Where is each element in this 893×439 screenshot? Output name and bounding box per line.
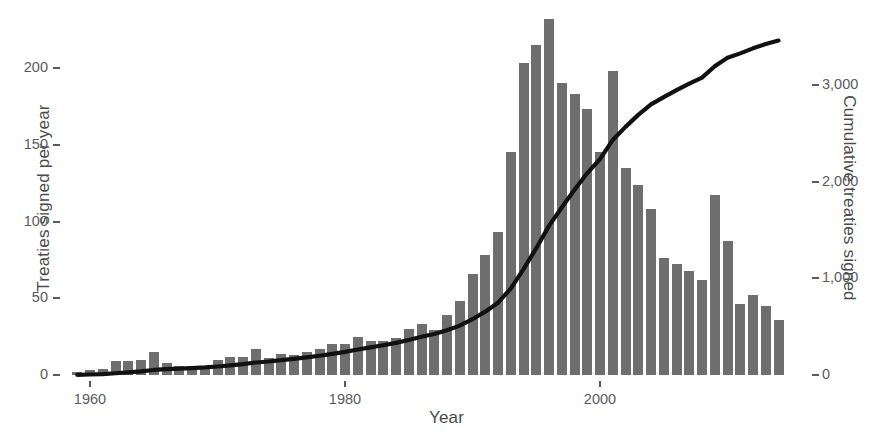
bar: [149, 352, 159, 375]
tick-mark: [599, 381, 601, 387]
bar: [404, 329, 414, 375]
bar: [340, 344, 350, 375]
bar: [378, 341, 388, 375]
bar: [659, 258, 669, 375]
bar: [646, 209, 656, 375]
bar: [123, 361, 133, 375]
bar: [697, 280, 707, 375]
bar: [111, 361, 121, 375]
bar: [366, 341, 376, 375]
bar: [85, 370, 95, 375]
y-tick-label-right: 2,000: [822, 173, 882, 189]
bar: [748, 295, 758, 375]
tick-mark: [812, 374, 819, 376]
y-tick-label-right: 0: [822, 366, 882, 382]
bar: [162, 363, 172, 375]
y-tick-label-left: 150: [0, 136, 48, 152]
bar: [468, 274, 478, 375]
bar: [238, 357, 248, 375]
bar: [455, 301, 465, 375]
bar: [761, 306, 771, 375]
bar: [315, 349, 325, 375]
tick-mark: [53, 221, 60, 223]
bar: [136, 360, 146, 375]
bar: [608, 71, 618, 375]
bar: [570, 94, 580, 375]
plot-area: [0, 0, 893, 439]
bar: [200, 366, 210, 375]
bar: [417, 324, 427, 375]
bar: [633, 185, 643, 375]
bar: [621, 168, 631, 375]
bar: [531, 45, 541, 375]
bar: [582, 109, 592, 375]
bar: [187, 366, 197, 375]
bar: [429, 330, 439, 375]
bar: [723, 241, 733, 375]
bar: [302, 352, 312, 375]
tick-mark: [53, 297, 60, 299]
bar: [519, 63, 529, 375]
bar: [544, 19, 554, 375]
bar: [506, 152, 516, 375]
bar: [213, 360, 223, 375]
bar: [174, 366, 184, 375]
y-tick-label-right: 1,000: [822, 269, 882, 285]
tick-mark: [812, 181, 819, 183]
bar: [264, 358, 274, 375]
chart-figure: Treaties signed per year Cumulative trea…: [0, 0, 893, 439]
bar: [493, 232, 503, 375]
tick-mark: [89, 381, 91, 387]
bar: [353, 337, 363, 375]
bar: [289, 355, 299, 375]
bar: [684, 271, 694, 375]
y-tick-label-left: 200: [0, 59, 48, 75]
bar: [672, 264, 682, 375]
y-tick-label-right: 3,000: [822, 76, 882, 92]
bar: [251, 349, 261, 375]
tick-mark: [53, 67, 60, 69]
x-tick-label: 1960: [50, 391, 130, 407]
x-axis-label: Year: [0, 408, 893, 428]
tick-mark: [344, 381, 346, 387]
x-tick-label: 2000: [560, 391, 640, 407]
y-tick-label-left: 0: [0, 366, 48, 382]
bar: [72, 372, 82, 375]
tick-mark: [53, 374, 60, 376]
bar: [774, 320, 784, 375]
bar: [595, 152, 605, 375]
y-axis-label-right: Cumulative treaties signed: [839, 58, 859, 338]
bar: [98, 369, 108, 375]
bar: [710, 195, 720, 375]
bar: [735, 304, 745, 375]
bar: [442, 315, 452, 375]
bar: [327, 344, 337, 375]
tick-mark: [812, 84, 819, 86]
x-tick-label: 1980: [305, 391, 385, 407]
bar: [391, 338, 401, 375]
bar: [480, 255, 490, 375]
tick-mark: [53, 144, 60, 146]
bar: [276, 354, 286, 375]
bar: [557, 83, 567, 375]
y-tick-label-left: 50: [0, 289, 48, 305]
y-tick-label-left: 100: [0, 213, 48, 229]
tick-mark: [812, 277, 819, 279]
bar: [225, 357, 235, 375]
